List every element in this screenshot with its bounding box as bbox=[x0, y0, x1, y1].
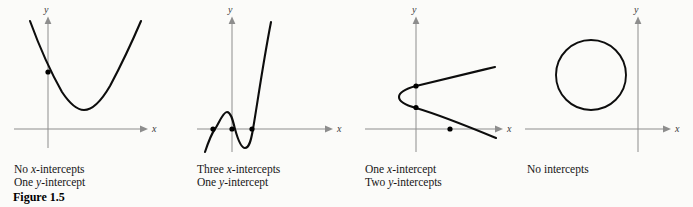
caption-1-pre: No bbox=[14, 163, 31, 175]
x-intercept-dot-origin bbox=[229, 126, 234, 131]
x-axis-label: x bbox=[506, 123, 512, 134]
figure-panel-row: x y No x-intercepts One y-intercept Figu… bbox=[0, 0, 693, 207]
y-axis-label: y bbox=[43, 4, 49, 15]
caption-line-1: No x-intercepts bbox=[14, 163, 85, 177]
x-axis-arrowhead bbox=[140, 126, 148, 133]
y-axis-arrowhead bbox=[229, 17, 236, 25]
y-axis-label: y bbox=[227, 4, 233, 15]
caption-1-pre: One bbox=[365, 163, 387, 175]
y-axis-label: y bbox=[633, 4, 639, 15]
figure-label: Figure 1.5 bbox=[13, 190, 65, 205]
panel-sideways-parabola: x y One x-intercept Two y-intercepts bbox=[355, 0, 530, 207]
caption-line-2: One y-intercept bbox=[14, 176, 85, 190]
y-axis-arrowhead bbox=[635, 17, 642, 25]
caption-line-1: No intercepts bbox=[527, 163, 589, 177]
x-axis-arrowhead bbox=[325, 126, 333, 133]
y-axis-label: y bbox=[411, 4, 417, 15]
y-intercept-dot-lower bbox=[413, 105, 418, 110]
caption-2-pre: One bbox=[14, 176, 36, 188]
caption-line-2: Two y-intercepts bbox=[365, 176, 442, 190]
caption-1-pre: Three bbox=[197, 163, 227, 175]
caption-2-pre: Two bbox=[365, 176, 388, 188]
y-intercept-dot-upper bbox=[413, 83, 418, 88]
caption-line-2: One y-intercept bbox=[197, 176, 268, 190]
y-intercept-dot bbox=[45, 69, 50, 74]
caption-2-post: -intercept bbox=[224, 176, 268, 188]
caption-1-post: -intercepts bbox=[232, 163, 281, 175]
cubic-curve bbox=[205, 22, 271, 152]
x-intercept-dot-right bbox=[249, 126, 254, 131]
panel-circle: x y No intercepts bbox=[515, 0, 693, 207]
x-axis-arrowhead bbox=[495, 126, 503, 133]
graph-circle: x y bbox=[515, 0, 693, 160]
caption-2-pre: One bbox=[197, 176, 219, 188]
graph-sideways-parabola: x y bbox=[355, 0, 530, 160]
x-axis-label: x bbox=[336, 123, 342, 134]
caption-2-post: -intercepts bbox=[393, 176, 442, 188]
caption-1-post: -intercept bbox=[392, 163, 436, 175]
caption-2-post: -intercept bbox=[41, 176, 85, 188]
panel-cubic: x y Three x-intercepts One y-intercept bbox=[185, 0, 355, 207]
x-intercept-dot bbox=[447, 126, 452, 131]
panel-parabola-up: x y No x-intercepts One y-intercept Figu… bbox=[0, 0, 170, 207]
circle-curve bbox=[556, 40, 626, 110]
caption-1-pre: No intercepts bbox=[527, 163, 589, 175]
graph-parabola-up: x y bbox=[0, 0, 170, 160]
sideways-parabola-curve bbox=[399, 67, 496, 138]
x-axis-label: x bbox=[674, 123, 680, 134]
graph-cubic: x y bbox=[185, 0, 355, 160]
caption-line-1: One x-intercept bbox=[365, 163, 436, 177]
x-intercept-dot-left bbox=[210, 126, 215, 131]
y-axis-arrowhead bbox=[45, 17, 52, 25]
x-axis-label: x bbox=[151, 123, 157, 134]
parabola-curve bbox=[30, 21, 141, 110]
y-axis-arrowhead bbox=[413, 17, 420, 25]
x-axis-arrowhead bbox=[663, 126, 671, 133]
caption-line-1: Three x-intercepts bbox=[197, 163, 280, 177]
caption-1-post: -intercepts bbox=[36, 163, 85, 175]
